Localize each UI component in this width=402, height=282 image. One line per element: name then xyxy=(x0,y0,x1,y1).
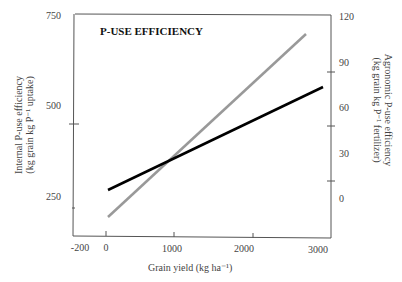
internal-efficiency-line xyxy=(108,87,323,190)
chart-title: P-USE EFFICIENCY xyxy=(100,25,203,37)
x-tick-label: 1000 xyxy=(162,243,182,254)
left-y-ticks xyxy=(69,124,79,208)
x-tick-label: 2000 xyxy=(234,243,254,254)
right-y-tick-label: 0 xyxy=(339,193,344,204)
x-tick-label: -200 xyxy=(71,242,89,253)
x-axis xyxy=(73,236,331,238)
x-axis-title: Grain yield (kg ha⁻¹) xyxy=(148,262,232,274)
left-y-axis-title-line2: (kg grain kg P⁻¹ uptake) xyxy=(24,76,36,173)
left-y-axis-title-line1: Internal P-use efficiency xyxy=(13,76,24,174)
x-tick-labels: -200 0 1000 2000 3000 xyxy=(71,242,328,255)
x-tick-label: 0 xyxy=(104,242,109,253)
agronomic-efficiency-line xyxy=(108,34,306,217)
left-y-tick-label: 750 xyxy=(46,10,61,21)
x-tick-label: 3000 xyxy=(308,244,328,255)
left-y-tick-label: 500 xyxy=(46,100,61,111)
left-y-axis-title: Internal P-use efficiency (kg grain kg P… xyxy=(13,76,36,174)
right-y-tick-labels: 120 90 60 30 0 xyxy=(339,11,354,204)
right-y-tick-label: 60 xyxy=(339,102,349,113)
left-y-axis xyxy=(73,14,74,236)
plot-top-border xyxy=(75,14,331,15)
left-y-tick-labels: 750 500 250 xyxy=(46,10,61,202)
right-y-axis-title-line2: (kg grain kg P⁻¹ fertilizer) xyxy=(371,57,383,162)
right-y-tick-label: 90 xyxy=(339,57,349,68)
p-use-efficiency-chart: -200 0 1000 2000 3000 750 500 250 120 90… xyxy=(0,0,402,282)
left-y-tick-label: 250 xyxy=(46,191,61,202)
right-y-axis-title: Agronomic P-use efficiency (kg grain kg … xyxy=(371,54,394,167)
right-y-tick-label: 30 xyxy=(339,148,349,159)
right-y-axis-title-line1: Agronomic P-use efficiency xyxy=(383,54,394,167)
right-y-tick-label: 120 xyxy=(339,11,354,22)
